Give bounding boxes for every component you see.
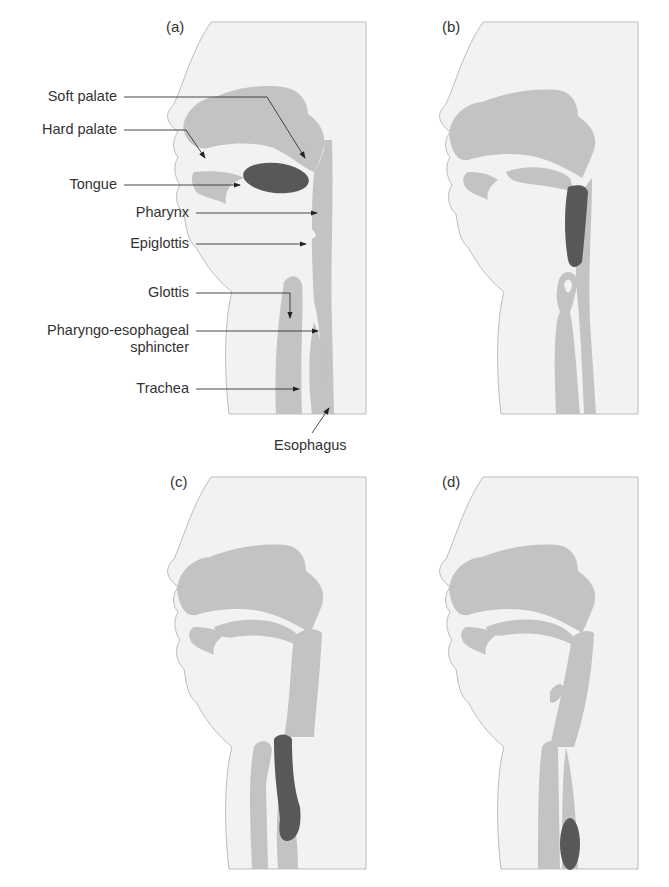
label-pe-sphincter-line1: Pharyngo-esophageal bbox=[47, 322, 189, 339]
anatomy-diagram-d bbox=[446, 477, 646, 877]
panel-label-c: (c) bbox=[170, 473, 188, 490]
anatomy-diagram-c bbox=[174, 477, 374, 877]
arrow-hard-palate bbox=[124, 130, 205, 158]
panel-c: (c) bbox=[174, 477, 374, 877]
anatomy-diagram-b bbox=[446, 22, 646, 422]
label-pe-sphincter: Pharyngo-esophageal sphincter bbox=[47, 322, 189, 356]
label-trachea: Trachea bbox=[136, 380, 189, 397]
panel-label-d: (d) bbox=[442, 473, 460, 490]
panel-label-b: (b) bbox=[442, 18, 460, 35]
arrow-glottis bbox=[196, 293, 290, 318]
label-glottis: Glottis bbox=[148, 284, 189, 301]
label-esophagus: Esophagus bbox=[274, 437, 347, 454]
panel-b: (b) bbox=[446, 22, 646, 422]
label-pe-sphincter-line2: sphincter bbox=[47, 339, 189, 356]
label-hard-palate: Hard palate bbox=[42, 121, 117, 138]
arrow-esophagus bbox=[312, 408, 329, 433]
arrow-soft-palate bbox=[124, 97, 305, 158]
panel-d: (d) bbox=[446, 477, 646, 877]
label-soft-palate: Soft palate bbox=[48, 88, 117, 105]
label-tongue: Tongue bbox=[69, 176, 117, 193]
label-pharynx: Pharynx bbox=[136, 204, 189, 221]
label-epiglottis: Epiglottis bbox=[130, 235, 189, 252]
